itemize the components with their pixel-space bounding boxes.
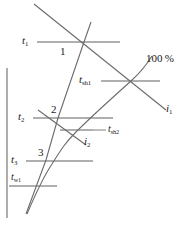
point-label-1: 1 <box>60 46 66 57</box>
point-label-3: 3 <box>38 147 44 158</box>
label-i1: i1 <box>166 103 172 114</box>
label-tsh1: tsh1 <box>79 74 91 85</box>
label-100-percent: 100 % <box>146 53 174 64</box>
label-tsh2: tsh2 <box>108 124 119 134</box>
thermodynamic-diagram: t1 1 100 % tsh1 i1 2 t2 tsh2 i2 3 t3 tw1 <box>0 0 184 227</box>
i2-line <box>38 110 86 145</box>
label-t2: t2 <box>18 111 24 122</box>
label-i2: i2 <box>84 136 90 147</box>
point-label-2: 2 <box>51 104 57 115</box>
label-tw1: tw1 <box>11 172 21 182</box>
label-t1: t1 <box>22 35 28 46</box>
label-t3: t3 <box>11 154 17 165</box>
